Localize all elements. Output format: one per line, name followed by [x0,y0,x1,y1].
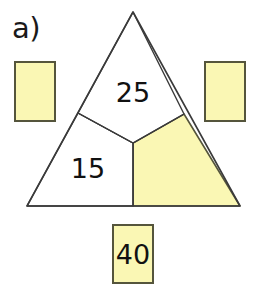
bottom-left-region-value: 15 [55,155,121,182]
right-answer-box[interactable] [204,61,246,122]
bottom-answer-box-value: 40 [116,241,150,268]
left-answer-box[interactable] [14,61,56,122]
part-label: a) [12,14,40,43]
top-region-value: 25 [100,79,166,106]
figure-container: a) 25 15 40 [0,0,257,291]
bottom-answer-box[interactable]: 40 [112,224,154,284]
